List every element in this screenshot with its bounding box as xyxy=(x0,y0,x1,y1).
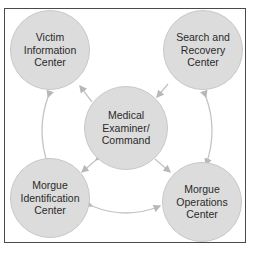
node-victim-information-center: Victim Information Center xyxy=(10,10,90,90)
node-morgue-operations-center: Morgue Operations Center xyxy=(162,162,242,242)
node-medical-examiner-command: Medical Examiner/ Command xyxy=(84,86,168,170)
node-morgue-identification-center: Morgue Identification Center xyxy=(10,158,90,238)
node-search-and-recovery-center: Search and Recovery Center xyxy=(163,10,243,90)
node-label: Search and Recovery Center xyxy=(176,31,230,69)
node-label: Medical Examiner/ Command xyxy=(102,109,150,147)
node-label: Morgue Operations Center xyxy=(176,183,227,221)
node-label: Victim Information Center xyxy=(24,31,77,69)
node-label: Morgue Identification Center xyxy=(21,179,80,217)
